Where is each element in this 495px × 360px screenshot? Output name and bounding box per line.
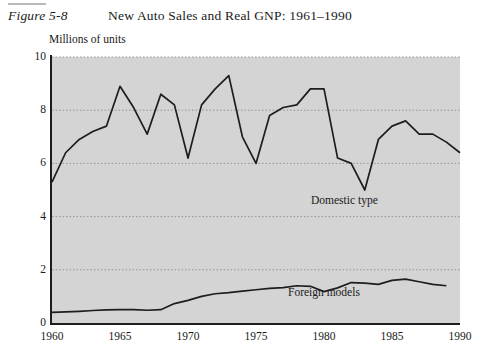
y-tick-label: 0 xyxy=(20,317,46,329)
x-tick-label: 1980 xyxy=(304,330,344,342)
chart-svg xyxy=(0,0,495,360)
y-tick-label: 10 xyxy=(20,51,46,63)
series-label-foreign: Foreign models xyxy=(288,286,360,298)
x-axis-line xyxy=(50,323,460,325)
x-tick-label: 1970 xyxy=(168,330,208,342)
chart-plot-area: 1086420 1960196519701975198019851990 Dom… xyxy=(0,0,495,360)
x-tick-label: 1965 xyxy=(100,330,140,342)
series-line-domestic xyxy=(52,76,460,190)
x-tick-label: 1990 xyxy=(440,330,480,342)
x-tick-label: 1985 xyxy=(372,330,412,342)
series-label-domestic: Domestic type xyxy=(311,194,378,206)
y-tick-label: 6 xyxy=(20,157,46,169)
series-line-foreign xyxy=(52,279,446,312)
y-axis-line xyxy=(50,55,52,325)
y-axis-ticks: 1086420 xyxy=(16,0,46,360)
x-tick-label: 1975 xyxy=(236,330,276,342)
y-tick-label: 2 xyxy=(20,264,46,276)
x-tick-label: 1960 xyxy=(32,330,72,342)
y-tick-label: 4 xyxy=(20,211,46,223)
y-tick-label: 8 xyxy=(20,104,46,116)
